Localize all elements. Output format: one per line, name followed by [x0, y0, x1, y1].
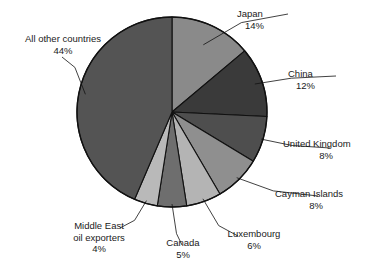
- pie-label-luxembourg-value: 6%: [218, 240, 290, 252]
- pie-label-canada-name: Canada: [155, 237, 211, 249]
- pie-label-canada-value: 5%: [155, 249, 211, 261]
- pie-label-china: China 12%: [288, 68, 315, 91]
- pie-label-luxembourg-name: Luxembourg: [218, 228, 290, 240]
- pie-label-united-kingdom-value: 8%: [283, 150, 369, 162]
- pie-label-middle-east-oil-exporters: Middle East oil exporters 4%: [57, 220, 141, 255]
- pie-label-all-other-countries: All other countries 44%: [8, 33, 118, 56]
- pie-label-japan-name: Japan: [237, 8, 264, 20]
- pie-label-all-other-countries-name: All other countries: [8, 33, 118, 45]
- pie-label-cayman-islands-value: 8%: [275, 200, 357, 212]
- pie-label-japan: Japan 14%: [237, 8, 264, 31]
- pie-label-japan-value: 14%: [237, 20, 264, 32]
- pie-label-middle-east-value: 4%: [57, 243, 141, 255]
- pie-label-all-other-countries-value: 44%: [8, 45, 118, 57]
- pie-label-united-kingdom-name: United Kingdom: [283, 138, 369, 150]
- pie-label-middle-east-line2: oil exporters: [57, 232, 141, 244]
- pie-label-united-kingdom: United Kingdom 8%: [283, 138, 369, 161]
- pie-label-china-name: China: [288, 68, 315, 80]
- pie-label-china-value: 12%: [288, 80, 315, 92]
- pie-chart-figure: Japan 14% China 12% United Kingdom 8% Ca…: [0, 0, 383, 269]
- pie-label-cayman-islands: Cayman Islands 8%: [275, 188, 357, 211]
- pie-label-middle-east-line1: Middle East: [57, 220, 141, 232]
- pie-label-luxembourg: Luxembourg 6%: [218, 228, 290, 251]
- pie-label-canada: Canada 5%: [155, 237, 211, 260]
- pie-label-cayman-islands-name: Cayman Islands: [275, 188, 357, 200]
